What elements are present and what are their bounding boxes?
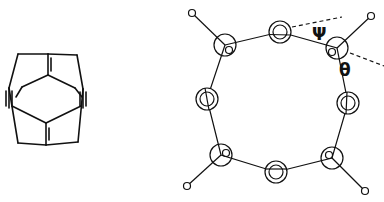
figure-canvas: Ψ θ	[0, 0, 384, 202]
substituent-atom	[362, 188, 369, 195]
substituent-atom	[189, 10, 196, 17]
cage-molecule	[6, 54, 86, 145]
ring-atom-double	[269, 21, 291, 43]
theta-label: θ	[339, 60, 351, 80]
substituent-atom	[368, 13, 375, 20]
ring-diagram	[184, 10, 384, 195]
psi-label: Ψ	[312, 24, 326, 44]
ring-atom-double	[265, 161, 287, 183]
theta-reference-line	[350, 53, 384, 66]
substituent-atom	[184, 183, 191, 190]
ring-atom-double	[337, 92, 359, 114]
